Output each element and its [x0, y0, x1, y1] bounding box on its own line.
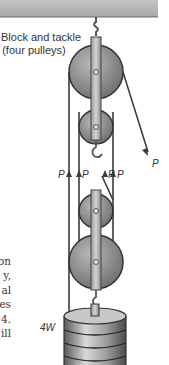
weight-label: 4W [40, 322, 55, 333]
lower-block-strap [91, 190, 101, 290]
weight-hook [93, 290, 96, 304]
tension-label-4: P [117, 169, 124, 180]
clipped-body-text: on y, al es 4. ill [0, 254, 11, 340]
tension-label-1: P [58, 169, 65, 180]
ceiling-beam [0, 0, 158, 17]
diagram-title: Block and tackle (four pulleys) [1, 31, 67, 57]
tension-label-2: P [82, 169, 89, 180]
title-line-1: Block and tackle [1, 31, 67, 44]
body-text-line-3: al [0, 283, 11, 297]
body-text-line-5: 4. [0, 312, 11, 326]
applied-force-label: P [152, 158, 159, 169]
body-text-line-2: y, [0, 268, 11, 282]
weight-stack [64, 304, 126, 365]
title-line-2: (four pulleys) [1, 44, 67, 57]
body-text-line-1: on [0, 254, 11, 268]
body-text-line-4: es [0, 297, 11, 311]
ceiling-hook [94, 17, 98, 36]
tension-label-3: P [108, 169, 115, 180]
body-text-line-6: ill [0, 326, 11, 340]
